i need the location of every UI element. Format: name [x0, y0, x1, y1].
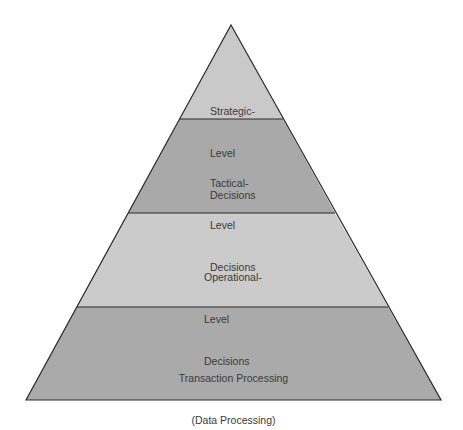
transaction-line-2: (Data Processing) — [146, 413, 321, 427]
tactical-line-2: Level — [210, 218, 256, 232]
transaction-level-label: Transaction Processing (Data Processing) — [146, 343, 321, 430]
tactical-line-1: Tactical- — [210, 176, 256, 190]
transaction-line-1: Transaction Processing — [146, 371, 321, 385]
strategic-line-1: Strategic- — [210, 104, 256, 118]
operational-line-2: Level — [204, 312, 262, 326]
operational-line-1: Operational- — [204, 270, 262, 284]
